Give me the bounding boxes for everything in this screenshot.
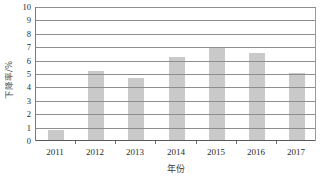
x-tick-mark (196, 141, 197, 144)
x-tick-mark (115, 141, 116, 144)
y-tick-label: 4 (27, 83, 31, 92)
x-tick-label: 2015 (207, 146, 225, 158)
x-axis-ticks (35, 141, 316, 145)
y-axis-title: 下降率/% (0, 0, 16, 160)
x-tick-label: 2017 (287, 146, 305, 158)
x-tick-mark (155, 141, 156, 144)
x-axis-title: 年份 (35, 162, 316, 175)
x-tick-label: 2013 (126, 146, 144, 158)
x-axis-tick-labels: 2011201220132014201520162017 (35, 146, 316, 160)
gridline (36, 61, 315, 62)
y-tick-label: 10 (23, 3, 32, 12)
gridline (36, 7, 315, 8)
y-tick-label: 3 (27, 97, 31, 106)
y-tick-label: 8 (27, 30, 31, 39)
y-axis-title-text: 下降率/% (2, 61, 14, 99)
plot-area (35, 7, 316, 141)
gridline (36, 47, 315, 48)
gridlines-layer (36, 7, 315, 141)
y-tick-label: 2 (27, 110, 31, 119)
gridline (36, 128, 315, 129)
x-tick-mark (276, 141, 277, 144)
y-tick-label: 1 (27, 123, 31, 132)
x-tick-mark (75, 141, 76, 144)
gridline (36, 114, 315, 115)
x-tick-label: 2011 (46, 146, 64, 158)
y-tick-label: 5 (27, 70, 31, 79)
y-tick-label: 9 (27, 16, 31, 25)
gridline (36, 34, 315, 35)
y-tick-label: 6 (27, 56, 31, 65)
x-tick-label: 2014 (167, 146, 185, 158)
x-tick-label: 2012 (86, 146, 104, 158)
gridline (36, 101, 315, 102)
y-tick-label: 7 (27, 43, 31, 52)
gridline (36, 20, 315, 21)
x-tick-label: 2016 (247, 146, 265, 158)
y-tick-label: 0 (27, 137, 31, 146)
gridline (36, 87, 315, 88)
x-tick-mark (236, 141, 237, 144)
bar-chart: 下降率/% 012345678910 201120122013201420152… (0, 0, 330, 188)
gridline (36, 74, 315, 75)
y-axis-tick-labels: 012345678910 (16, 7, 33, 141)
